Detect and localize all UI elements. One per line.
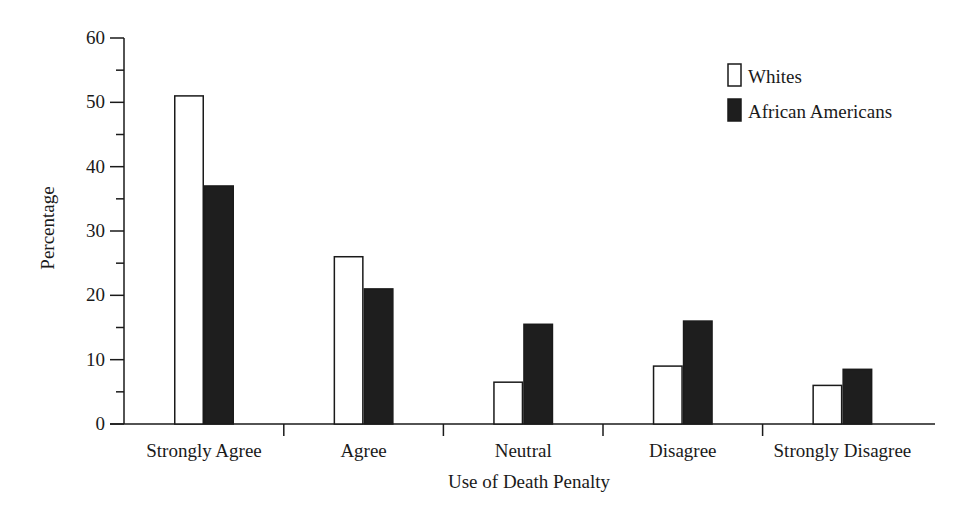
bar-african-americans bbox=[843, 369, 872, 424]
y-tick-label: 40 bbox=[86, 156, 105, 177]
bar-african-americans bbox=[684, 321, 713, 424]
bar-african-americans bbox=[524, 324, 553, 424]
y-tick-label: 20 bbox=[86, 284, 105, 305]
bar-whites bbox=[334, 257, 363, 424]
x-tick-label: Agree bbox=[340, 440, 386, 461]
x-axis: Strongly AgreeAgreeNeutralDisagreeStrong… bbox=[110, 424, 935, 461]
bar-whites bbox=[654, 366, 683, 424]
bar-african-americans bbox=[205, 186, 234, 424]
legend-label-african-americans: African Americans bbox=[748, 101, 892, 122]
legend-swatch-african-americans bbox=[728, 99, 741, 121]
y-tick-label: 30 bbox=[86, 220, 105, 241]
y-axis-label: Percentage bbox=[37, 186, 58, 269]
legend-swatch-whites bbox=[728, 64, 741, 86]
bar-whites bbox=[813, 385, 842, 424]
y-tick-label: 60 bbox=[86, 27, 105, 48]
bars bbox=[175, 96, 872, 424]
y-axis: 0102030405060 bbox=[86, 27, 124, 434]
y-tick-label: 10 bbox=[86, 349, 105, 370]
bar-whites bbox=[175, 96, 204, 424]
y-tick-label: 0 bbox=[96, 413, 106, 434]
legend: WhitesAfrican Americans bbox=[728, 64, 892, 122]
bar-african-americans bbox=[364, 289, 393, 424]
x-tick-label: Strongly Disagree bbox=[774, 440, 912, 461]
x-tick-label: Neutral bbox=[495, 440, 552, 461]
bar-chart: 0102030405060 Strongly AgreeAgreeNeutral… bbox=[0, 0, 967, 522]
x-axis-label: Use of Death Penalty bbox=[448, 471, 610, 492]
x-tick-label: Strongly Agree bbox=[146, 440, 262, 461]
bar-whites bbox=[494, 382, 523, 424]
legend-label-whites: Whites bbox=[748, 66, 802, 87]
y-tick-label: 50 bbox=[86, 91, 105, 112]
x-tick-label: Disagree bbox=[649, 440, 717, 461]
